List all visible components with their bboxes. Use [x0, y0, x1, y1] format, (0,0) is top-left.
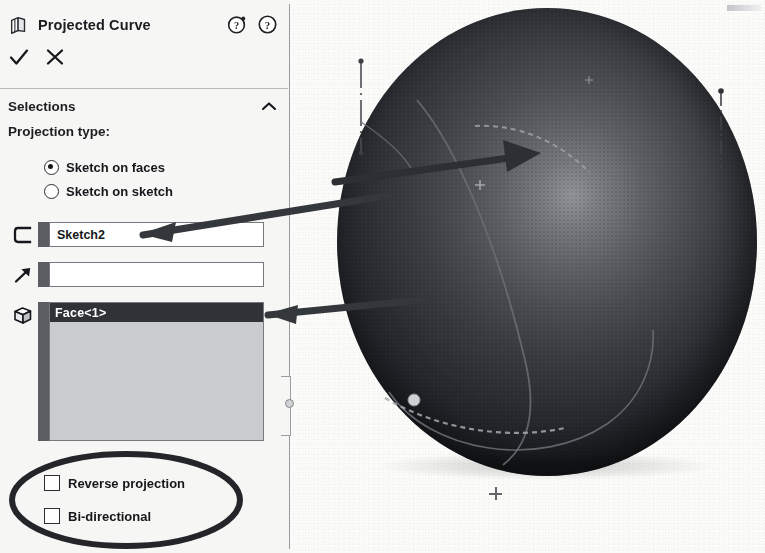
direction-arrow-icon	[8, 262, 38, 288]
checkbox-bi-directional[interactable]: Bi-directional	[44, 508, 151, 524]
sketch-selection-row: Sketch2	[0, 222, 264, 248]
direction-field-accent-bar	[38, 262, 49, 287]
sketch-curve-icon	[8, 222, 38, 248]
projection-type-label: Projection type:	[8, 124, 110, 139]
arrow-on-sphere	[335, 140, 541, 182]
viewport-overlay-geometry	[289, 0, 765, 553]
sphere-cross-marker-top	[585, 76, 593, 84]
checkbox-label-reverse-projection: Reverse projection	[68, 476, 185, 491]
radio-label-sketch-on-faces: Sketch on faces	[66, 160, 165, 175]
vertical-dash-dot-axis-left	[358, 58, 363, 155]
projected-curve-dashed	[475, 126, 589, 172]
faces-selection-row: Face<1>	[0, 302, 264, 441]
panel-help-icons: ? ?	[227, 14, 278, 35]
panel-pin-button[interactable]	[285, 399, 294, 408]
property-manager-panel: Projected Curve ? ?	[0, 0, 290, 553]
svg-text:?: ?	[265, 19, 270, 31]
chevron-up-icon[interactable]	[260, 100, 278, 112]
faces-list-accent-bar	[38, 302, 49, 441]
faces-selection-listbox[interactable]: Face<1>	[49, 302, 264, 441]
selections-section-label: Selections	[8, 99, 76, 114]
panel-title-bar: Projected Curve ? ?	[0, 8, 290, 42]
upper-arc	[361, 122, 411, 168]
svg-text:?: ?	[234, 20, 239, 31]
panel-divider	[0, 88, 288, 89]
radio-sketch-on-faces[interactable]: Sketch on faces	[44, 160, 165, 175]
graphics-viewport[interactable]	[289, 0, 765, 553]
projected-curve-icon	[8, 14, 30, 36]
silhouette-circle	[389, 330, 653, 450]
radio-indicator-sketch-on-sketch[interactable]	[44, 184, 59, 199]
question-mark-icon[interactable]: ?	[257, 14, 278, 35]
x-mark-icon[interactable]	[44, 46, 66, 68]
highlighted-vertex-dot	[408, 394, 420, 406]
selections-section-header[interactable]: Selections	[8, 96, 282, 116]
list-item[interactable]: Face<1>	[50, 303, 263, 322]
panel-action-buttons	[8, 46, 66, 68]
sphere-cross-marker	[475, 180, 485, 190]
checkbox-indicator-reverse-projection[interactable]	[44, 475, 60, 491]
checkbox-label-bi-directional: Bi-directional	[68, 509, 151, 524]
sketch-field-accent-bar	[38, 222, 49, 247]
check-mark-icon[interactable]	[8, 46, 30, 68]
corner-ui-fragment	[727, 5, 761, 11]
radio-indicator-sketch-on-faces[interactable]	[44, 160, 59, 175]
face-cube-icon	[8, 302, 38, 328]
checkbox-reverse-projection[interactable]: Reverse projection	[44, 475, 185, 491]
direction-selection-input[interactable]	[49, 262, 264, 287]
question-mark-sparkle-icon[interactable]: ?	[227, 14, 248, 35]
direction-selection-row	[0, 262, 264, 288]
sketch-selection-input[interactable]: Sketch2	[49, 222, 264, 247]
application-window: Projected Curve ? ?	[0, 0, 765, 553]
page-title: Projected Curve	[38, 17, 151, 33]
panel-border	[289, 4, 290, 549]
vertical-dash-dot-axis-right	[718, 88, 724, 168]
radio-sketch-on-sketch[interactable]: Sketch on sketch	[44, 184, 173, 199]
crosshair-plus-icon	[489, 487, 502, 500]
radio-label-sketch-on-sketch: Sketch on sketch	[66, 184, 173, 199]
checkbox-indicator-bi-directional[interactable]	[44, 508, 60, 524]
